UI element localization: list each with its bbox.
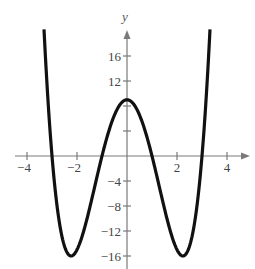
x-tick-label: 2 <box>174 160 181 175</box>
y-tick-label: −8 <box>107 199 121 214</box>
function-graph: y −4−224 1612−4−8−12−16 <box>0 0 255 269</box>
x-axis-arrow-icon <box>241 153 250 160</box>
x-tick-label: −2 <box>67 160 81 175</box>
y-tick-label: −12 <box>101 224 121 239</box>
y-tick-label: 12 <box>108 74 121 89</box>
x-tick-label: 4 <box>224 160 231 175</box>
y-tick-label: −4 <box>107 174 121 189</box>
y-tick-label: −16 <box>101 249 122 264</box>
x-tick-label: −4 <box>17 160 31 175</box>
y-tick-label: 16 <box>108 49 122 64</box>
y-axis-arrow-icon <box>124 30 131 39</box>
y-axis-label: y <box>120 9 128 24</box>
